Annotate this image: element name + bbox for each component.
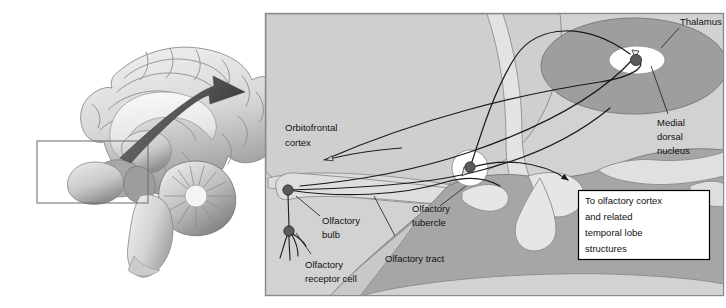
- label-olfactory-bulb-line1: Olfactory: [322, 215, 360, 226]
- label-olfactory-receptor-cell-line1: Olfactory: [305, 259, 343, 270]
- callout-line-3: temporal lobe: [585, 227, 643, 238]
- medial-dorsal-nucleus-node: [630, 54, 641, 65]
- temporal-lobe: [67, 162, 123, 204]
- callout-line-4: structures: [585, 243, 627, 254]
- olfactory-pathway-detail: To olfactory cortex and related temporal…: [266, 14, 726, 297]
- callout-line-2: and related: [585, 211, 633, 222]
- olfactory-bulb-node: [283, 185, 293, 195]
- label-medial-dorsal-nucleus-line3: nucleus: [657, 145, 690, 156]
- label-orbitofrontal-cortex-line2: cortex: [285, 137, 311, 148]
- label-olfactory-receptor-cell-line2: receptor cell: [305, 273, 357, 284]
- figure-canvas: To olfactory cortex and related temporal…: [0, 0, 726, 308]
- label-olfactory-tubercle-line1: Olfactory: [412, 203, 450, 214]
- label-thalamus: Thalamus: [680, 16, 722, 27]
- olfactory-receptor-cell-node: [284, 226, 294, 236]
- label-olfactory-tract: Olfactory tract: [385, 253, 444, 264]
- midsagittal-brain-illustration: [37, 47, 282, 277]
- figure-root: To olfactory cortex and related temporal…: [0, 0, 726, 308]
- label-orbitofrontal-cortex-line1: Orbitofrontal: [285, 122, 337, 133]
- label-olfactory-tubercle-line2: tubercle: [412, 217, 446, 228]
- label-olfactory-bulb-line2: bulb: [322, 229, 340, 240]
- label-medial-dorsal-nucleus-line1: Medial: [657, 117, 685, 128]
- label-medial-dorsal-nucleus-line2: dorsal: [657, 131, 683, 142]
- olfactory-tubercle-node: [465, 162, 475, 172]
- callout-line-1: To olfactory cortex: [585, 195, 662, 206]
